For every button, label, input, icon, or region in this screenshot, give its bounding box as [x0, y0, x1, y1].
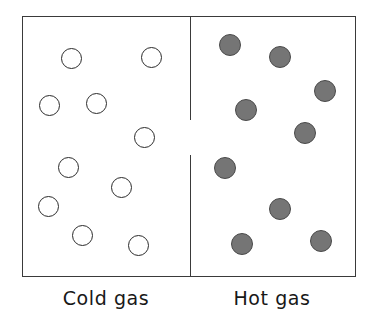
divider-segment-2 — [190, 155, 191, 277]
cold-particle-9 — [72, 225, 93, 246]
hot-particle-1 — [219, 34, 241, 56]
cold-particle-8 — [38, 196, 59, 217]
hot-particle-9 — [310, 230, 332, 252]
cold-gas-label: Cold gas — [63, 287, 150, 309]
hot-particle-6 — [214, 157, 236, 179]
hot-gas-label: Hot gas — [233, 287, 310, 309]
divider-segment-1 — [190, 16, 191, 120]
hot-particle-3 — [314, 80, 336, 102]
cold-particle-6 — [58, 157, 79, 178]
cold-particle-4 — [86, 93, 107, 114]
hot-particle-4 — [235, 99, 257, 121]
hot-particle-8 — [231, 233, 253, 255]
hot-particle-2 — [269, 46, 291, 68]
cold-particle-3 — [39, 95, 60, 116]
gas-diagram-figure: Cold gas Hot gas — [0, 0, 372, 327]
cold-particle-5 — [134, 127, 155, 148]
cold-particle-1 — [61, 48, 82, 69]
hot-particle-5 — [294, 122, 316, 144]
cold-particle-7 — [111, 177, 132, 198]
cold-particle-2 — [141, 47, 162, 68]
hot-particle-7 — [269, 198, 291, 220]
cold-particle-10 — [128, 235, 149, 256]
